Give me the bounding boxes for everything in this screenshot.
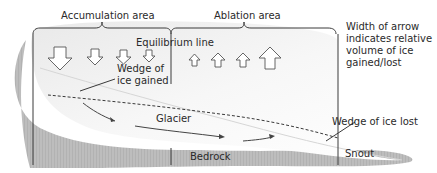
wedge-lost-label: Wedge of ice lost	[332, 116, 418, 127]
glacier-label: Glacier	[156, 113, 191, 124]
wedge-gained-label-line1: Wedge of	[117, 63, 164, 74]
arrow-width-note: Width of arrow indicates relative volume…	[346, 21, 437, 69]
snout-label: Snout	[345, 148, 374, 159]
note-line: Width of arrow	[346, 21, 437, 33]
note-line: volume of ice	[346, 45, 437, 57]
ablation-area-label: Ablation area	[214, 10, 281, 21]
note-line: gained/lost	[346, 57, 437, 69]
bedrock-label: Bedrock	[190, 151, 231, 162]
accumulation-area-label: Accumulation area	[61, 10, 155, 21]
wedge-gained-label-line2: ice gained	[117, 75, 169, 86]
note-line: indicates relative	[346, 33, 437, 45]
equilibrium-line-label: Equilibrium line	[136, 37, 214, 48]
